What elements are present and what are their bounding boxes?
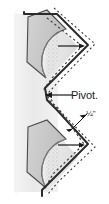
- diagram-canvas: [0, 0, 109, 204]
- dimension-label: ¼": [86, 109, 96, 118]
- pivot-label: Pivot.: [71, 89, 98, 101]
- folding-pivot-detail-diagram: Pivot. ¼": [0, 0, 109, 204]
